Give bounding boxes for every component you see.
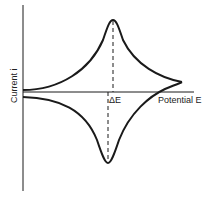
voltammogram-diagram: ΔE Potential E Current i [0, 0, 215, 197]
anodic-curve [23, 20, 182, 90]
x-axis-label: Potential E [158, 95, 202, 105]
y-axis-label: Current i [9, 68, 19, 103]
delta-e-label: ΔE [109, 95, 121, 105]
